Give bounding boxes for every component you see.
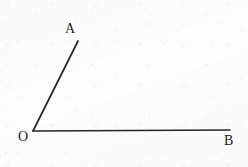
- angle-diagram-figure: A O B: [0, 0, 248, 167]
- vertex-label-b: B: [224, 134, 234, 148]
- vertex-label-a: A: [65, 22, 75, 36]
- vertex-label-o: O: [18, 130, 28, 144]
- ray-oa-line: [33, 41, 78, 131]
- ray-ob-line: [33, 130, 230, 131]
- angle-diagram-canvas: [0, 0, 248, 167]
